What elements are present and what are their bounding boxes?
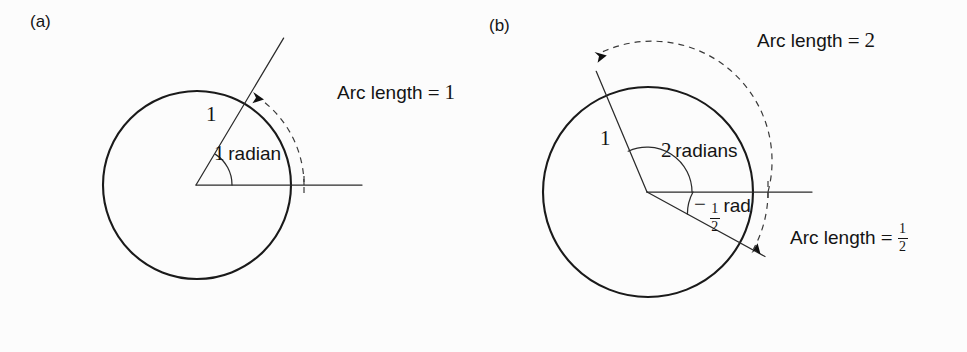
panel-b-geometry <box>543 41 812 297</box>
arc-length-label-top-b: Arc length = 2 <box>757 30 875 51</box>
arc-length-label-a-equals: = <box>428 83 440 104</box>
arc-length-label-a-value: 1 <box>445 82 456 103</box>
angle-label-negative-b-denominator: 2 <box>710 220 719 235</box>
angle-label-negative-b-minus: − <box>694 194 706 215</box>
arc-length-label-bottom-b-text: Arc length <box>790 228 876 247</box>
arc-length-label-bottom-b: Arc length = 1 2 <box>790 221 908 253</box>
angle-label-a-number: 1 <box>214 143 225 164</box>
arc-length-dashed-bottom-b <box>753 192 768 250</box>
arc-length-label-a: Arc length = 1 <box>337 82 455 103</box>
radius-label-b: 1 <box>600 128 611 149</box>
angle-label-positive-b-number: 2 <box>661 140 672 161</box>
arc-length-dashed-top-b <box>598 41 772 192</box>
arc-length-label-bottom-b-fraction: 1 2 <box>898 222 908 254</box>
angle-label-positive-b-unit: radians <box>675 141 737 160</box>
arc-length-label-top-b-text: Arc length <box>757 31 843 50</box>
arc-arrowhead-bottom-b <box>751 243 760 254</box>
radian-figure: (a) 1 1 radian Arc length = 1 (b) 1 2 ra… <box>0 0 967 352</box>
angle-arc-negative-b <box>687 192 693 214</box>
angle-label-a-unit: radian <box>228 144 281 163</box>
arc-length-label-top-b-equals: = <box>848 31 860 52</box>
radius-label-a: 1 <box>206 104 217 125</box>
angle-label-a: 1 radian <box>214 143 281 164</box>
angle-label-negative-b-fraction: 1 2 <box>710 202 720 234</box>
arc-length-label-bottom-b-denominator: 2 <box>898 240 907 255</box>
angle-label-positive-b: 2 radians <box>661 140 738 161</box>
panel-label-a: (a) <box>30 13 51 30</box>
arc-arrowhead-top-b <box>595 52 607 63</box>
arc-length-label-bottom-b-numerator: 1 <box>898 222 907 237</box>
arc-length-label-top-b-value: 2 <box>865 30 876 51</box>
panel-label-b: (b) <box>489 17 510 34</box>
figure-canvas <box>0 0 967 352</box>
arc-length-label-bottom-b-equals: = <box>881 228 893 249</box>
arc-length-label-a-text: Arc length <box>337 83 423 102</box>
angle-label-negative-b-unit: rad <box>723 196 750 215</box>
angle-label-negative-b-numerator: 1 <box>710 202 719 217</box>
arc-arrowhead-a <box>252 92 264 103</box>
angle-label-negative-b: − 1 2 rad <box>694 195 751 233</box>
